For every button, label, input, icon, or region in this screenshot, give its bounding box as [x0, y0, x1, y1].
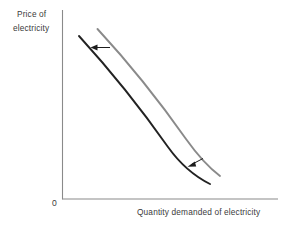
y-axis-label-line2: electricity	[13, 23, 50, 33]
shift-arrow-upper-icon	[91, 45, 111, 51]
y-axis-label-line1: Price of	[17, 9, 47, 19]
demand-curve-shifted	[79, 36, 210, 184]
economics-demand-shift-figure: Price of electricity 0 Quantity demanded…	[0, 0, 284, 226]
chart-canvas: Price of electricity 0 Quantity demanded…	[0, 0, 284, 226]
shift-arrow-lower-icon	[188, 159, 204, 167]
demand-curve-original	[98, 29, 221, 176]
origin-label: 0	[52, 198, 57, 208]
x-axis-label: Quantity demanded of electricity	[137, 207, 261, 217]
